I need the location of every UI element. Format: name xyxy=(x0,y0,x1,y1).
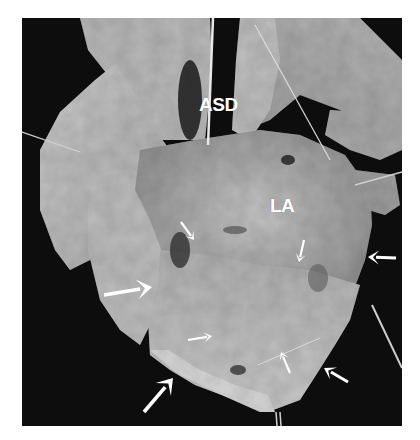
arrow-right-edge-icon xyxy=(376,257,396,258)
thread-lower-right xyxy=(372,305,402,368)
arrow-bottom-left-icon xyxy=(144,387,165,412)
arrow-lower-right-edge-icon xyxy=(331,372,348,382)
thread-bottom-2 xyxy=(280,412,281,426)
label-asd: ASD xyxy=(199,95,238,114)
label-la: LA xyxy=(270,196,294,215)
thread-bottom xyxy=(276,412,277,426)
tissue-group xyxy=(40,18,402,412)
heart-specimen-illustration xyxy=(22,18,402,426)
specimen-photo: ASD LA xyxy=(22,18,402,426)
